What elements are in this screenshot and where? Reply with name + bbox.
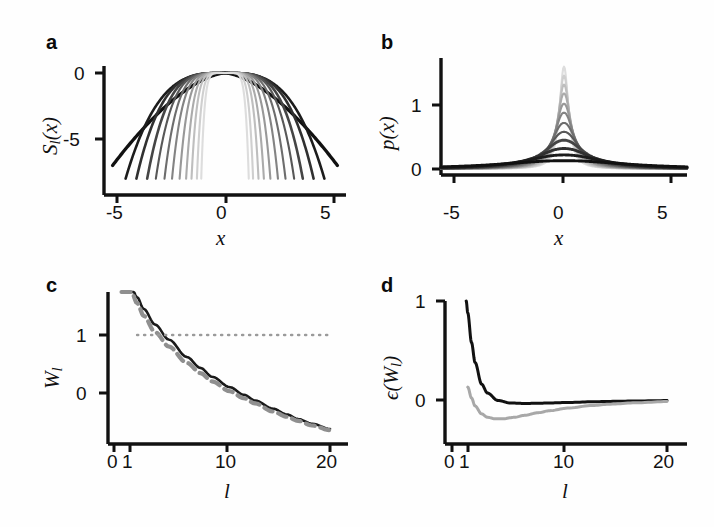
curve — [466, 301, 667, 403]
panel-d-plot — [357, 264, 714, 527]
panel-c-plot — [0, 264, 357, 527]
panel-b-curves — [441, 67, 687, 169]
curve — [197, 73, 253, 179]
figure-canvas: a Sl(x) 0 -5 -5 0 5 x b p(x) 1 0 -5 0 5 — [0, 0, 714, 527]
panel-c-curves — [122, 292, 330, 430]
panel-b: b p(x) 1 0 -5 0 5 x — [357, 0, 714, 264]
curve — [122, 292, 330, 429]
panel-a: a Sl(x) 0 -5 -5 0 5 x — [0, 0, 357, 264]
curve — [122, 292, 330, 430]
panel-d: d ϵ(Wl) 1 0 0 1 10 20 l — [357, 264, 714, 527]
curve — [165, 73, 286, 179]
curve — [441, 132, 687, 168]
curve — [113, 73, 338, 165]
curve — [201, 73, 249, 179]
panel-a-plot — [0, 0, 357, 264]
curve — [136, 73, 313, 179]
curve — [441, 161, 687, 167]
panel-c: c Wl 1 0 0 1 10 20 l — [0, 264, 357, 527]
panel-d-curves — [466, 301, 667, 419]
curve — [126, 73, 325, 179]
panel-b-plot — [357, 0, 714, 264]
panel-a-curves — [113, 73, 338, 179]
